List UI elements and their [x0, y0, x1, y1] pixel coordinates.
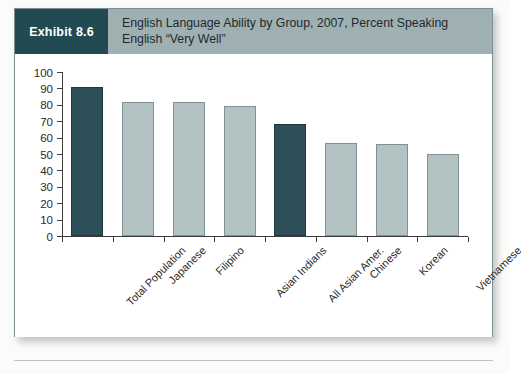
x-axis-tick: [214, 237, 215, 242]
bar-total-population: [71, 87, 103, 236]
page-bottom-rule: [14, 360, 493, 361]
exhibit-title: English Language Ability by Group, 2007,…: [108, 9, 492, 54]
y-axis-tick-label: 0: [47, 231, 53, 243]
bar-filipino: [173, 102, 205, 236]
bar-korean: [376, 144, 408, 236]
exhibit-title-line-2: English “Very Well”: [122, 32, 482, 48]
bar-asian-indians: [224, 106, 256, 236]
x-axis-tick: [164, 237, 165, 242]
bar-chinese: [325, 143, 357, 236]
y-axis-tick-label: 40: [40, 165, 53, 177]
y-axis-tick-label: 70: [40, 116, 53, 128]
y-axis-tick-label: 90: [40, 83, 53, 95]
x-axis-tick: [113, 237, 114, 242]
y-axis-tick-label: 100: [34, 67, 53, 79]
exhibit-card: Exhibit 8.6 English Language Ability by …: [14, 8, 493, 337]
category-label: Vietnamese: [474, 244, 523, 293]
x-axis-tick: [367, 237, 368, 242]
y-axis-tick-label: 20: [40, 198, 53, 210]
exhibit-title-line-1: English Language Ability by Group, 2007,…: [122, 16, 448, 30]
category-label: Filipino: [213, 244, 246, 277]
x-axis-tick: [417, 237, 418, 242]
bar-vietnamese: [427, 154, 459, 236]
category-label: Korean: [416, 244, 450, 278]
chart-plot-area: 0102030405060708090100 Total PopulationJ…: [15, 54, 492, 337]
exhibit-number-tag: Exhibit 8.6: [15, 9, 108, 54]
exhibit-header: Exhibit 8.6 English Language Ability by …: [15, 9, 492, 54]
x-axis-category-labels: Total PopulationJapaneseFilipinoAsian In…: [62, 244, 468, 334]
y-axis-tick-label: 10: [40, 214, 53, 226]
x-axis-tick: [265, 237, 266, 242]
x-axis-tick: [62, 237, 63, 242]
category-label: Asian Indians: [273, 244, 328, 299]
bar-all-asian-amer: [274, 124, 306, 236]
y-axis-tick-label: 80: [40, 99, 53, 111]
y-axis-tick-label: 30: [40, 181, 53, 193]
y-axis-tick-label: 60: [40, 132, 53, 144]
bar-japanese: [122, 102, 154, 236]
x-axis-tick: [468, 237, 469, 242]
y-axis-tick-label: 50: [40, 149, 53, 161]
bar-series: [62, 72, 468, 236]
x-axis-tick: [316, 237, 317, 242]
